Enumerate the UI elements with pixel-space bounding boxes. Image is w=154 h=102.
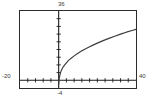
x-min-label: -20 bbox=[2, 73, 11, 80]
calculator-screen: 36 -20 40 -4 bbox=[0, 0, 154, 102]
x-max-label: 40 bbox=[139, 73, 146, 80]
plot-canvas bbox=[20, 11, 136, 88]
function-curve bbox=[59, 29, 136, 84]
plot-frame bbox=[19, 10, 137, 89]
y-min-label: -4 bbox=[57, 90, 62, 97]
y-max-label: 36 bbox=[58, 1, 65, 8]
